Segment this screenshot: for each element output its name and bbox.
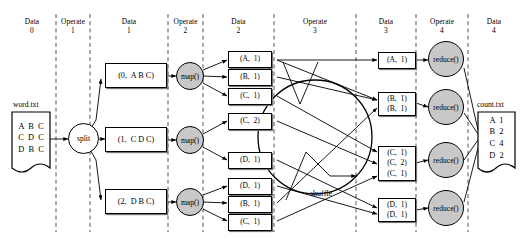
data1-record[interactable]: (0, A B C) bbox=[105, 63, 167, 88]
header-kind: Operate bbox=[61, 17, 85, 26]
data2-pair[interactable]: (B, 1) bbox=[228, 196, 272, 213]
data2-pair-row: (D, 1) bbox=[229, 155, 271, 165]
input-file-content: A B C C D C D B C bbox=[12, 112, 50, 164]
header-index: 2 bbox=[169, 26, 202, 35]
data1-record-text: (0, A B C) bbox=[118, 71, 154, 80]
data3-group-row: (C, 2) bbox=[379, 158, 415, 168]
map-label: map() bbox=[181, 72, 199, 81]
map-operator[interactable]: map() bbox=[176, 62, 204, 90]
map-operator[interactable]: map() bbox=[176, 188, 204, 216]
data2-pair[interactable]: (B, 1) bbox=[228, 69, 272, 86]
header-index: 4 bbox=[469, 26, 519, 35]
data2-pair-row: (C, 1) bbox=[229, 217, 271, 227]
column-header-data-1: Data 1 bbox=[91, 17, 167, 35]
header-index: 4 bbox=[417, 26, 467, 35]
header-index: 1 bbox=[91, 26, 167, 35]
header-index: 3 bbox=[357, 26, 415, 35]
column-header-data-4: Data 4 bbox=[469, 17, 519, 35]
data3-group-row: (A, 1) bbox=[379, 55, 415, 65]
reduce-label: reduce() bbox=[433, 55, 458, 64]
reduce-operator[interactable]: reduce() bbox=[428, 190, 464, 226]
data1-record[interactable]: (1, C D C) bbox=[105, 127, 167, 152]
output-file-label: count.txt bbox=[477, 100, 504, 109]
data2-pair[interactable]: (C, 1) bbox=[228, 214, 272, 231]
column-header-data-2: Data 2 bbox=[204, 17, 273, 35]
header-kind: Data bbox=[25, 17, 39, 26]
column-header-operate-2: Operate 2 bbox=[169, 17, 202, 35]
header-kind: Data bbox=[487, 17, 501, 26]
output-file-content: A 1 B 2 C 4 D 2 bbox=[478, 110, 515, 166]
data1-record-text: (2, D B C) bbox=[118, 197, 155, 206]
data3-group-row: (D, 1) bbox=[379, 200, 415, 210]
reduce-operator[interactable]: reduce() bbox=[428, 41, 464, 77]
map-label: map() bbox=[181, 198, 199, 207]
header-index: 2 bbox=[204, 26, 273, 35]
split-operator[interactable]: split bbox=[68, 123, 99, 154]
data3-group[interactable]: (C, 1) (C, 2) (C, 1) bbox=[378, 146, 416, 181]
reduce-operator[interactable]: reduce() bbox=[428, 89, 464, 125]
reduce-label: reduce() bbox=[433, 156, 458, 165]
header-kind: Operate bbox=[173, 17, 197, 26]
reduce-label: reduce() bbox=[433, 204, 458, 213]
data2-pair-row: (A, 1) bbox=[229, 54, 271, 64]
mapreduce-diagram: Data 0 Operate 1 Data 1 Operate 2 Data 2… bbox=[0, 0, 527, 239]
data2-pair-row: (D, 1) bbox=[229, 181, 271, 191]
data2-pair-row: (B, 1) bbox=[229, 199, 271, 209]
data2-pair[interactable]: (D, 1) bbox=[228, 152, 272, 169]
reduce-label: reduce() bbox=[433, 103, 458, 112]
data3-group[interactable]: (A, 1) bbox=[378, 52, 416, 69]
shuffle-label: shuffle bbox=[310, 189, 332, 198]
data3-group-row: (C, 1) bbox=[379, 169, 415, 179]
input-file-line: D B C bbox=[18, 144, 44, 156]
output-file-line: B 2 bbox=[490, 126, 504, 138]
data3-group[interactable]: (B, 1) (B, 1) bbox=[378, 92, 416, 116]
output-file-line: A 1 bbox=[490, 115, 504, 127]
column-header-operate-4: Operate 4 bbox=[417, 17, 467, 35]
header-kind: Data bbox=[379, 17, 393, 26]
reduce-operator[interactable]: reduce() bbox=[428, 142, 464, 178]
column-header-operate-3: Operate 3 bbox=[275, 17, 355, 35]
column-header-data-3: Data 3 bbox=[357, 17, 415, 35]
header-index: 1 bbox=[57, 26, 89, 35]
data2-pair[interactable]: (C, 2) bbox=[228, 113, 272, 130]
column-header-operate-1: Operate 1 bbox=[57, 17, 89, 35]
split-label: split bbox=[77, 134, 90, 143]
output-file-line: C 4 bbox=[490, 138, 504, 150]
header-index: 0 bbox=[10, 26, 54, 35]
input-file-line: A B C bbox=[18, 121, 43, 133]
header-index: 3 bbox=[275, 26, 355, 35]
data3-group[interactable]: (D, 1) (D, 1) bbox=[378, 198, 416, 222]
input-file-line: C D C bbox=[18, 132, 44, 144]
data2-pair[interactable]: (D, 1) bbox=[228, 178, 272, 195]
data2-pair-row: (C, 1) bbox=[229, 91, 271, 101]
header-kind: Data bbox=[231, 17, 245, 26]
data1-record-text: (1, C D C) bbox=[118, 135, 155, 144]
data3-group-row: (C, 1) bbox=[379, 148, 415, 158]
header-kind: Operate bbox=[303, 17, 327, 26]
data1-record[interactable]: (2, D B C) bbox=[105, 189, 167, 214]
output-file-line: D 2 bbox=[489, 150, 503, 162]
header-kind: Operate bbox=[430, 17, 454, 26]
data2-pair[interactable]: (A, 1) bbox=[228, 51, 272, 68]
input-file-label: word.txt bbox=[13, 100, 39, 109]
data3-group-row: (B, 1) bbox=[379, 94, 415, 104]
map-label: map() bbox=[181, 136, 199, 145]
data2-pair-row: (C, 2) bbox=[229, 116, 271, 126]
data2-pair[interactable]: (C, 1) bbox=[228, 88, 272, 105]
data3-group-row: (D, 1) bbox=[379, 210, 415, 220]
map-operator[interactable]: map() bbox=[176, 126, 204, 154]
data2-pair-row: (B, 1) bbox=[229, 72, 271, 82]
column-header-data-0: Data 0 bbox=[10, 17, 54, 35]
header-kind: Data bbox=[122, 17, 136, 26]
data3-group-row: (B, 1) bbox=[379, 104, 415, 114]
